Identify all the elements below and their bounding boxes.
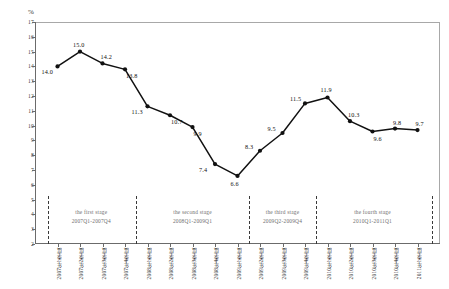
data-point-marker — [415, 128, 419, 132]
series-line-layer — [0, 0, 449, 289]
data-point-label: 13.8 — [126, 72, 138, 79]
data-point-marker — [370, 129, 374, 133]
data-point-label: 9.8 — [393, 119, 401, 126]
data-point-marker — [235, 174, 239, 178]
data-point-label: 9.6 — [374, 135, 382, 142]
data-point-label: 6.6 — [231, 180, 239, 187]
data-point-marker — [303, 101, 307, 105]
data-point-label: 14.2 — [101, 53, 113, 60]
data-point-label: 11.3 — [132, 108, 143, 115]
data-point-label: 9.5 — [268, 125, 276, 132]
data-point-label: 7.4 — [199, 166, 207, 173]
series-markers — [55, 50, 419, 179]
data-point-marker — [280, 131, 284, 135]
data-point-marker — [348, 119, 352, 123]
data-point-marker — [123, 67, 127, 71]
data-point-marker — [325, 95, 329, 99]
data-point-marker — [393, 126, 397, 130]
data-point-label: 14.0 — [42, 68, 54, 75]
data-point-marker — [258, 149, 262, 153]
data-point-label: 11.5 — [290, 95, 301, 102]
data-point-marker — [190, 125, 194, 129]
data-point-marker — [213, 162, 217, 166]
data-point-label: 9.9 — [194, 130, 202, 137]
data-point-marker — [100, 61, 104, 65]
data-point-marker — [145, 104, 149, 108]
data-point-label: 8.3 — [245, 143, 253, 150]
data-point-marker — [78, 50, 82, 54]
line-chart: % 171615141312111098765432 2007年1季度2007年… — [0, 0, 449, 289]
data-point-label: 11.9 — [321, 86, 332, 93]
data-point-marker — [168, 113, 172, 117]
data-point-label: 10.3 — [348, 111, 360, 118]
series-polyline — [58, 52, 418, 176]
data-point-marker — [55, 64, 59, 68]
data-point-label: 10.7 — [171, 118, 183, 125]
data-point-label: 15.0 — [73, 41, 85, 48]
data-point-label: 9.7 — [416, 120, 424, 127]
